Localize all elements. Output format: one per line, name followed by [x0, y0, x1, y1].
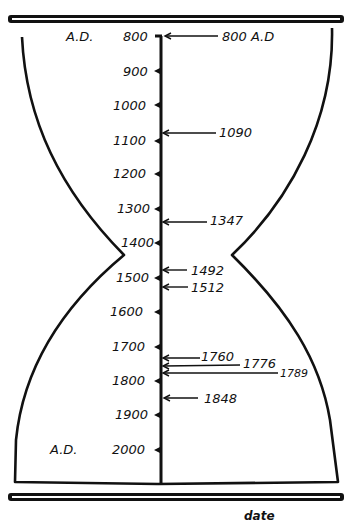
- svg-text:800: 800: [123, 29, 148, 44]
- hourglass-outline-right: [158, 28, 338, 484]
- top-bar: [8, 15, 344, 23]
- svg-text:1200: 1200: [113, 166, 146, 181]
- annotation-1492: 1492: [163, 263, 224, 278]
- svg-text:1760: 1760: [201, 349, 234, 364]
- svg-text:2000: 2000: [112, 442, 145, 457]
- svg-text:800 A.D: 800 A.D: [222, 29, 274, 44]
- svg-text:1789: 1789: [280, 367, 308, 380]
- svg-text:1400: 1400: [121, 235, 154, 250]
- svg-text:1600: 1600: [110, 304, 143, 319]
- svg-text:1300: 1300: [117, 201, 150, 216]
- svg-text:1347: 1347: [210, 213, 244, 228]
- svg-text:1900: 1900: [115, 407, 148, 422]
- svg-text:1000: 1000: [113, 98, 146, 113]
- annotation-1789: 1789: [163, 367, 308, 380]
- svg-text:1090: 1090: [219, 125, 252, 140]
- hourglass-diagram: A.D. A.D. 800 900 1000 1100 1200 1300 14…: [0, 0, 348, 528]
- annotation-1090: 1090: [163, 125, 252, 140]
- svg-text:1848: 1848: [204, 391, 237, 406]
- axis-ticks: 800 900 1000 1100 1200 1300 1400 1500 16…: [110, 29, 160, 457]
- bottom-bar: [8, 493, 344, 501]
- top-era-label: A.D.: [65, 29, 93, 44]
- annotation-1347: 1347: [163, 213, 244, 228]
- svg-text:1100: 1100: [113, 133, 146, 148]
- annotation-800: 800 A.D: [165, 29, 274, 44]
- svg-text:1776: 1776: [243, 356, 276, 371]
- svg-text:1700: 1700: [112, 339, 145, 354]
- bottom-era-label: A.D.: [49, 442, 77, 457]
- svg-text:1492: 1492: [191, 263, 224, 278]
- caption: date: [244, 509, 275, 523]
- annotation-1512: 1512: [163, 280, 224, 295]
- svg-text:1512: 1512: [191, 280, 224, 295]
- svg-text:1500: 1500: [116, 270, 149, 285]
- annotation-1760: 1760: [163, 349, 234, 364]
- svg-text:900: 900: [123, 64, 148, 79]
- svg-text:1800: 1800: [112, 373, 145, 388]
- annotations: 800 A.D 1090 1347 1492 1512 1760: [163, 29, 308, 406]
- annotation-1848: 1848: [164, 391, 237, 406]
